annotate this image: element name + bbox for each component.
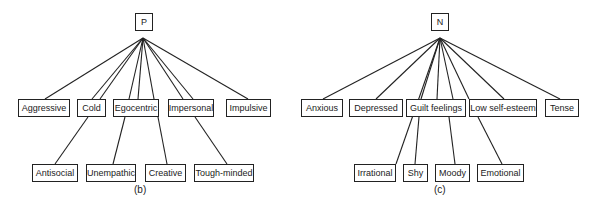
node-irrational: Irrational bbox=[354, 164, 396, 182]
node-moody: Moody bbox=[435, 164, 470, 182]
node-guilt-feelings: Guilt feelings bbox=[406, 99, 466, 117]
node-anxious: Anxious bbox=[301, 99, 343, 117]
node-tense: Tense bbox=[545, 99, 579, 117]
caption-c: (c) bbox=[434, 184, 446, 195]
root-node-p: P bbox=[135, 13, 153, 31]
node-impulsive: Impulsive bbox=[226, 99, 271, 117]
node-cold: Cold bbox=[77, 99, 106, 117]
caption-b: (b) bbox=[134, 184, 146, 195]
node-shy: Shy bbox=[403, 164, 428, 182]
node-tough-minded: Tough-minded bbox=[194, 164, 254, 182]
root-node-n: N bbox=[431, 13, 449, 31]
node-impersonal: Impersonal bbox=[168, 99, 214, 117]
node-low-self-esteem: Low self-esteem bbox=[469, 99, 537, 117]
node-unempathic: Unempathic bbox=[86, 164, 136, 182]
node-egocentric: Egocentric bbox=[113, 99, 159, 117]
node-emotional: Emotional bbox=[477, 164, 524, 182]
node-aggressive: Aggressive bbox=[18, 99, 70, 117]
node-depressed: Depressed bbox=[349, 99, 403, 117]
node-antisocial: Antisocial bbox=[32, 164, 78, 182]
node-creative: Creative bbox=[145, 164, 186, 182]
